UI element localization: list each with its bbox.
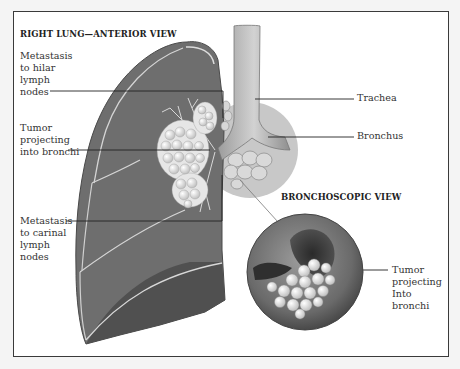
label-trachea: Trachea: [357, 92, 397, 104]
label-hilar-metastasis: Metastasis to hilar lymph nodes: [20, 50, 73, 98]
label-bronchus: Bronchus: [357, 130, 403, 142]
inset-title: BRONCHOSCOPIC VIEW: [281, 192, 401, 202]
label-carinal-metastasis: Metastasis to carinal lymph nodes: [20, 215, 73, 263]
main-title: RIGHT LUNG—ANTERIOR VIEW: [20, 29, 177, 39]
bronchoscopic-view: [247, 214, 363, 330]
label-tumor-projecting: Tumor projecting into bronchi: [20, 122, 79, 158]
trachea: [218, 25, 290, 160]
label-inset-tumor: Tumor projecting Into bronchi: [392, 264, 442, 312]
